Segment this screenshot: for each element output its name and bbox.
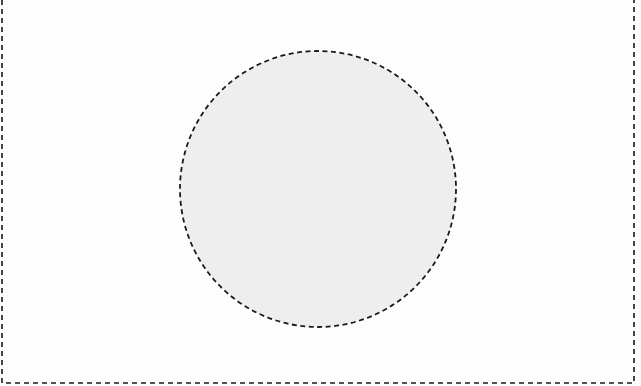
diagram-canvas: [0, 0, 641, 386]
diagram-svg: [0, 0, 641, 386]
dashed-circle: [180, 51, 456, 327]
